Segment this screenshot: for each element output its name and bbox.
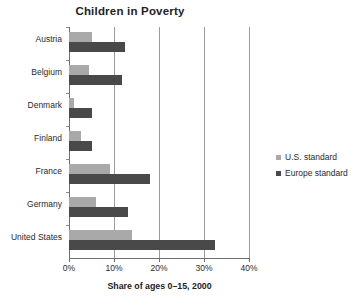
- x-tick-0%: [69, 258, 70, 262]
- category-label: France: [36, 166, 62, 176]
- category-tick: [66, 192, 69, 193]
- gridline-40%: [249, 27, 250, 258]
- plot-area: AustriaBelgiumDenmarkFinlandFranceGerman…: [69, 27, 249, 258]
- legend-label: Europe standard: [285, 168, 348, 178]
- category-tick: [66, 159, 69, 160]
- category-tick: [66, 93, 69, 94]
- category-label: Austria: [36, 34, 62, 44]
- bar-europe-standard: [69, 141, 92, 151]
- bar-us-standard: [69, 230, 132, 240]
- bar-europe-standard: [69, 240, 215, 250]
- bar-europe-standard: [69, 75, 122, 85]
- x-tick-label: 30%: [195, 263, 212, 273]
- category-label: Denmark: [28, 100, 62, 110]
- legend-swatch-icon: [276, 171, 281, 176]
- bar-us-standard: [69, 65, 89, 75]
- bar-europe-standard: [69, 207, 128, 217]
- chart-container: Children in Poverty AustriaBelgiumDenmar…: [0, 0, 361, 306]
- chart-title: Children in Poverty: [0, 5, 260, 17]
- legend-swatch-icon: [276, 155, 281, 160]
- category-tick: [66, 225, 69, 226]
- bar-us-standard: [69, 32, 92, 42]
- category-label: United States: [11, 232, 62, 242]
- category-row: United States: [69, 225, 249, 258]
- category-row: Denmark: [69, 93, 249, 126]
- x-tick-20%: [159, 258, 160, 262]
- bar-us-standard: [69, 98, 74, 108]
- legend-item: Europe standard: [276, 168, 348, 178]
- legend-item: U.S. standard: [276, 152, 348, 162]
- bar-us-standard: [69, 131, 81, 141]
- x-tick-label: 10%: [105, 263, 122, 273]
- category-row: Germany: [69, 192, 249, 225]
- category-tick: [66, 27, 69, 28]
- x-tick-40%: [249, 258, 250, 262]
- x-tick-label: 20%: [150, 263, 167, 273]
- category-label: Finland: [34, 133, 62, 143]
- category-row: Austria: [69, 27, 249, 60]
- category-label: Belgium: [31, 67, 62, 77]
- category-label: Germany: [27, 199, 62, 209]
- bar-europe-standard: [69, 108, 92, 118]
- x-tick-10%: [114, 258, 115, 262]
- x-tick-label: 0%: [63, 263, 75, 273]
- category-row: Finland: [69, 126, 249, 159]
- category-row: Belgium: [69, 60, 249, 93]
- category-row: France: [69, 159, 249, 192]
- bar-us-standard: [69, 197, 96, 207]
- bar-europe-standard: [69, 42, 125, 52]
- chart-legend: U.S. standardEurope standard: [276, 152, 348, 184]
- x-tick-label: 40%: [240, 263, 257, 273]
- bar-us-standard: [69, 164, 110, 174]
- category-tick: [66, 60, 69, 61]
- bar-europe-standard: [69, 174, 150, 184]
- legend-label: U.S. standard: [285, 152, 337, 162]
- x-axis-title: Share of ages 0–15, 2000: [69, 281, 250, 291]
- category-tick: [66, 126, 69, 127]
- x-tick-30%: [204, 258, 205, 262]
